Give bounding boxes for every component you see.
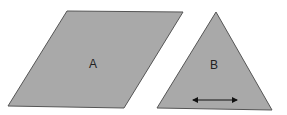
label-b: B [210,58,218,72]
parallelogram-a: A [8,11,183,108]
label-a: A [89,57,97,71]
diagram-canvas: A B [0,0,287,115]
